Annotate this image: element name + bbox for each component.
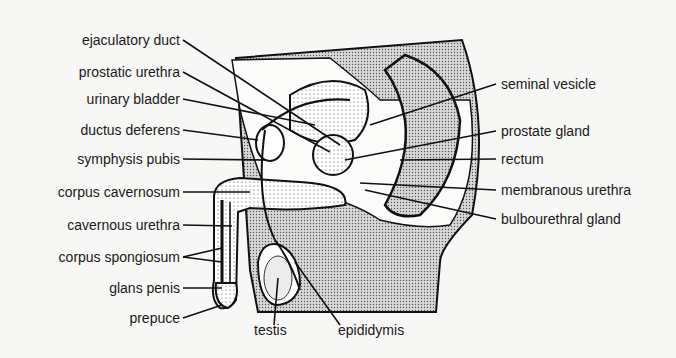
label-epididymis: epididymis — [338, 322, 404, 338]
label-cavernous-urethra: cavernous urethra — [67, 217, 180, 233]
label-corpus-cavernosum: corpus cavernosum — [58, 184, 180, 200]
anatomy-illustration — [0, 0, 676, 358]
label-ductus-deferens: ductus deferens — [80, 122, 180, 138]
label-prostate-gland: prostate gland — [501, 123, 590, 139]
label-urinary-bladder: urinary bladder — [87, 91, 180, 107]
label-rectum: rectum — [501, 151, 544, 167]
label-testis: testis — [254, 322, 287, 338]
label-glans-penis: glans penis — [109, 280, 180, 296]
label-symphysis-pubis: symphysis pubis — [77, 151, 180, 167]
label-prostatic-urethra: prostatic urethra — [79, 64, 180, 80]
label-membranous-urethra: membranous urethra — [501, 182, 631, 198]
label-prepuce: prepuce — [129, 310, 180, 326]
body-section — [213, 40, 479, 312]
label-corpus-spongiosum: corpus spongiosum — [59, 249, 180, 265]
label-seminal-vesicle: seminal vesicle — [501, 76, 596, 92]
label-ejaculatory-duct: ejaculatory duct — [82, 32, 180, 48]
label-bulbourethral-gland: bulbourethral gland — [501, 211, 621, 227]
